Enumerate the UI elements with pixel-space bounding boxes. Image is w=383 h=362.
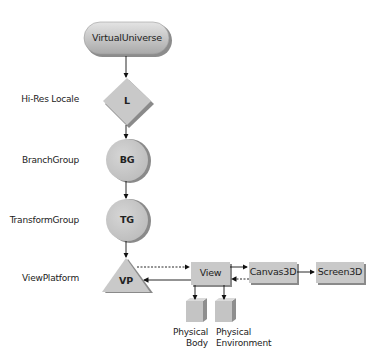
side-label-view-platform: ViewPlatform (22, 273, 79, 283)
transform-group-label: TG (112, 214, 142, 225)
side-label-branch-group: BranchGroup (22, 155, 79, 165)
locale-label: L (112, 95, 142, 106)
physical-body-node (186, 298, 207, 322)
virtual-universe-label: VirtualUniverse (84, 32, 170, 43)
physical-environment-label-line1: Physical (216, 327, 251, 337)
side-label-hi-res-locale: Hi-Res Locale (21, 94, 79, 104)
canvas3d-label: Canvas3D (249, 266, 297, 277)
physical-body-label-line1: Physical (172, 327, 208, 337)
side-label-transform-group: TransformGroup (10, 215, 79, 225)
physical-environment-label-line2: Environment (216, 338, 271, 348)
view-label: View (191, 267, 230, 278)
view-platform-label: VP (111, 275, 141, 286)
scene-graph-diagram: VirtualUniverse L BG TG VP View Canvas3D… (0, 0, 383, 362)
physical-body-label-line2: Body (172, 338, 208, 348)
branch-group-label: BG (112, 154, 142, 165)
physical-environment-node (215, 298, 236, 322)
screen3d-label: Screen3D (316, 266, 364, 277)
diagram-graphics (0, 0, 383, 362)
